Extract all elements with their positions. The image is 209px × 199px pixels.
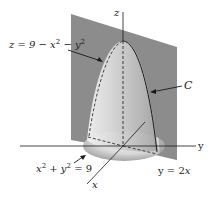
circle-equation: x2 + y2 = 9 (36, 164, 92, 174)
z-axis-label: z (114, 8, 119, 18)
x-axis-label: x (92, 180, 98, 190)
curve-C-label: C (184, 80, 192, 91)
circle-arrowhead (80, 155, 86, 160)
y-axis-label: y (198, 141, 204, 151)
paraboloid-equation: z = 9 − x2 − y2 (9, 40, 85, 50)
plane-equation: y = 2x (158, 166, 190, 176)
